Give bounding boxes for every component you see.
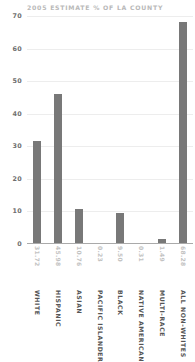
chart-title: 2005 ESTIMATE % OF LA COUNTY [27,3,163,12]
x-axis-label-group: 9.50BLACK [110,246,130,361]
bar [75,209,83,244]
gridline [27,146,193,147]
x-axis-labels: 31.72WHITE45.98HISPANIC10.76ASIAN0.23PAC… [27,246,193,361]
gridline [27,16,193,17]
y-axis-tick-label: 20 [0,175,22,182]
bar-value-label: 1.49 [158,246,165,262]
bar-value-label: 9.50 [117,246,124,262]
y-axis-tick-label: 40 [0,110,22,117]
y-axis-tick-label: 60 [0,45,22,52]
x-axis-label-group: 68.28ALL NON-WHITES [173,246,193,361]
bar-value-label: 0.31 [138,246,145,262]
bar-value-label: 10.76 [75,246,82,266]
bar-value-label: 31.72 [34,246,41,266]
bar [33,141,41,244]
x-axis-label-group: 31.72WHITE [27,246,47,361]
y-axis-tick-label: 70 [0,13,22,20]
bar [179,22,187,244]
category-label: ALL NON-WHITES [179,290,186,358]
gridline [27,179,193,180]
gridline [27,81,193,82]
bar [54,94,62,244]
category-label: HISPANIC [55,290,62,327]
y-axis-tick-label: 10 [0,208,22,215]
x-axis-label-group: 0.23PACIFIC ISLANDER [90,246,110,361]
category-label: MULTI-RACE [158,290,165,337]
category-label: PACIFIC ISLANDER [96,290,103,362]
x-axis-label-group: 10.76ASIAN [69,246,89,361]
plot-area [27,16,193,244]
gridline [27,114,193,115]
x-axis-label-group: 1.49MULTI-RACE [152,246,172,361]
bar-value-label: 0.23 [96,246,103,262]
gridline [27,211,193,212]
y-axis-tick-label: 30 [0,143,22,150]
x-axis-line [27,243,193,245]
bar-value-label: 68.28 [179,246,186,266]
category-label: NATIVE AMERICAN [138,290,145,362]
y-axis-tick-label: 50 [0,78,22,85]
category-label: WHITE [34,290,41,316]
x-axis-label-group: 0.31NATIVE AMERICAN [131,246,151,361]
category-label: BLACK [117,290,124,316]
bar-value-label: 45.98 [55,246,62,266]
gridline [27,49,193,50]
category-label: ASIAN [75,290,82,314]
bar [116,213,124,244]
y-axis-tick-label: 0 [0,241,22,248]
x-axis-label-group: 45.98HISPANIC [48,246,68,361]
